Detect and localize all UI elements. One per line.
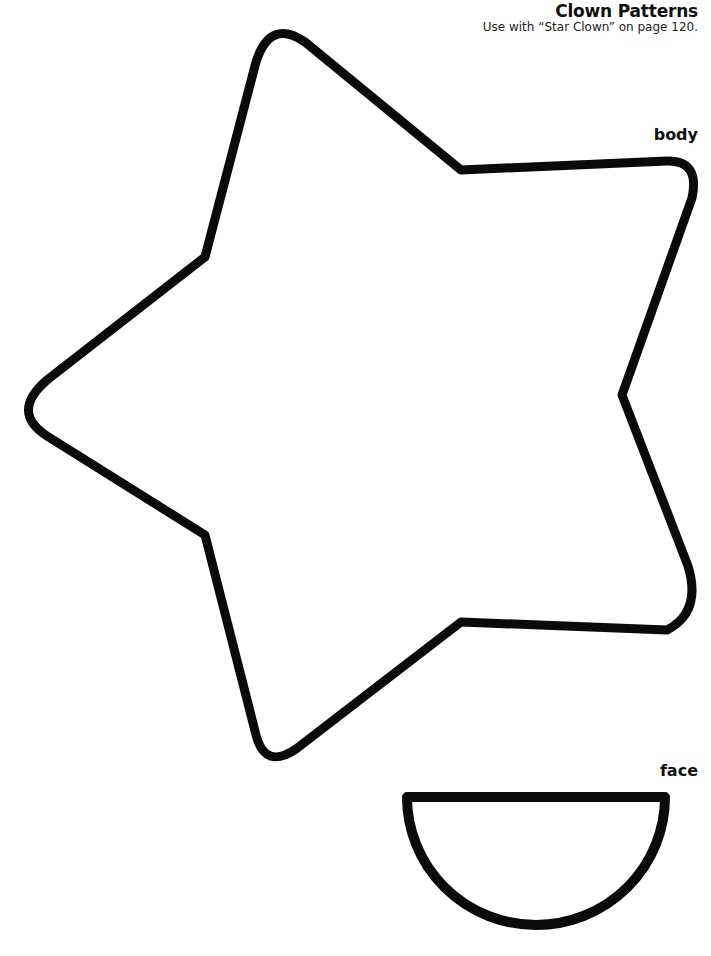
star-body-outline (29, 34, 694, 757)
face-semicircle-outline (407, 797, 665, 925)
pattern-canvas (0, 0, 711, 956)
